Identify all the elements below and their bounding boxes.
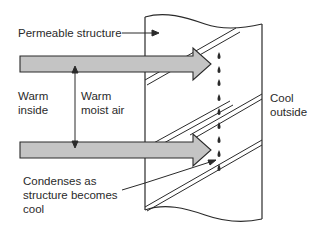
permeable-structure xyxy=(145,15,262,222)
upper-airflow-arrow xyxy=(20,48,211,80)
label-condenses-1: Condenses as xyxy=(23,175,97,187)
water-drop-icon xyxy=(218,94,221,101)
label-permeable-structure: Permeable structure xyxy=(18,27,122,39)
arrowhead-right-icon xyxy=(152,30,159,36)
water-drop-icon xyxy=(218,136,221,143)
water-drop-icon xyxy=(218,79,221,86)
label-warm-moist-air-2: moist air xyxy=(81,104,125,116)
water-drop-icon xyxy=(218,66,221,73)
label-condenses-3: cool xyxy=(23,203,44,215)
structure-bottom-wave xyxy=(145,207,262,222)
label-condenses-2: structure becomes xyxy=(23,189,118,201)
condensation-diagram: Permeable structure Warm inside Warm moi… xyxy=(0,0,321,236)
structure-top-wave xyxy=(145,15,262,29)
label-warm-moist-air-1: Warm xyxy=(81,90,111,102)
lower-airflow-arrow xyxy=(20,134,211,166)
water-drop-icon xyxy=(218,52,221,59)
condensation-drops xyxy=(218,52,221,171)
water-drop-icon xyxy=(218,150,221,157)
arrowhead-icon xyxy=(208,160,216,165)
vertical-span-arrow xyxy=(72,66,78,148)
permeable-structure-pointer xyxy=(122,30,159,36)
condenses-pointer xyxy=(122,160,216,190)
label-warm-inside-2: inside xyxy=(18,104,48,116)
label-cool-outside-2: outside xyxy=(270,106,307,118)
water-drop-icon xyxy=(218,108,221,115)
label-warm-inside-1: Warm xyxy=(18,90,48,102)
label-cool-outside-1: Cool xyxy=(270,92,294,104)
